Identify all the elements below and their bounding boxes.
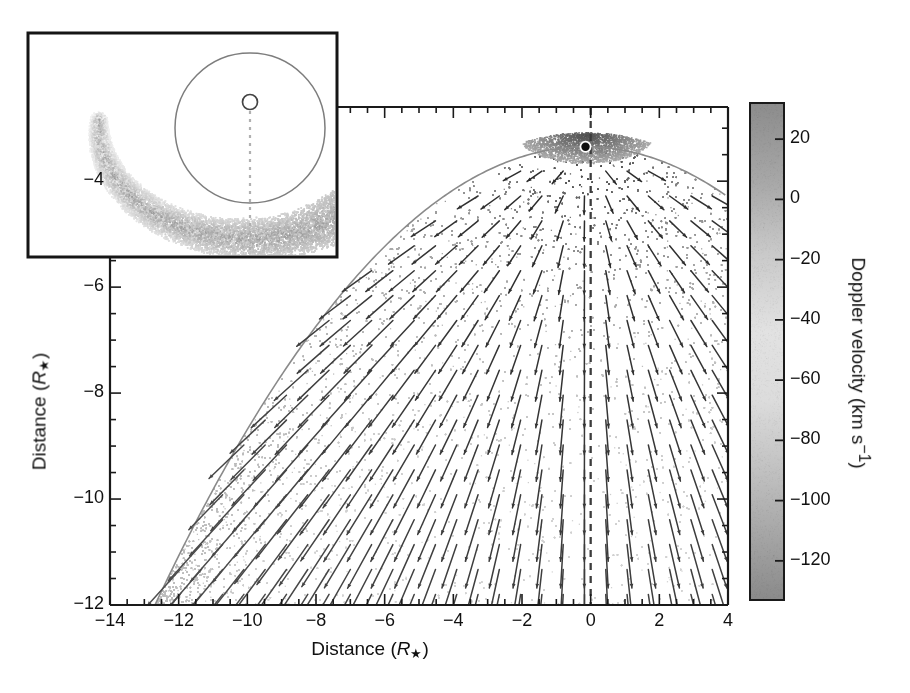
- y-tick-label: −4: [44, 169, 104, 190]
- x-axis-title: Distance (R★): [0, 638, 740, 661]
- x-tick-label: −4: [423, 610, 483, 631]
- colorbar-tick-label: −120: [790, 549, 831, 570]
- x-tick-label: −8: [286, 610, 346, 631]
- y-axis-title-text: Distance (R★): [29, 353, 50, 471]
- colorbar-title: Doppler velocity (km s−1): [847, 203, 873, 523]
- doppler-velocity-figure: Distance (R★) Distance (R★) Doppler velo…: [0, 0, 910, 693]
- y-tick-label: −6: [44, 275, 104, 296]
- x-tick-label: −10: [217, 610, 277, 631]
- colorbar-tick-label: 0: [790, 187, 800, 208]
- colorbar-tick-label: −80: [790, 428, 821, 449]
- x-tick-label: 0: [561, 610, 621, 631]
- x-tick-label: −12: [149, 610, 209, 631]
- x-tick-label: 2: [629, 610, 689, 631]
- y-tick-label: −12: [44, 593, 104, 614]
- x-tick-label: 4: [698, 610, 758, 631]
- y-axis-title: Distance (R★): [29, 312, 52, 512]
- colorbar-tick-label: −100: [790, 489, 831, 510]
- colorbar-tick-label: −60: [790, 368, 821, 389]
- y-tick-label: −10: [44, 487, 104, 508]
- x-tick-label: −2: [492, 610, 552, 631]
- colorbar-tick-label: 20: [790, 127, 810, 148]
- colorbar-tick-label: −20: [790, 248, 821, 269]
- x-axis-title-text: Distance (R★): [311, 638, 429, 659]
- x-tick-label: −6: [355, 610, 415, 631]
- figure-canvas: [0, 0, 910, 693]
- colorbar-tick-label: −40: [790, 308, 821, 329]
- y-tick-label: −8: [44, 381, 104, 402]
- colorbar-title-text: Doppler velocity (km s−1): [848, 258, 869, 469]
